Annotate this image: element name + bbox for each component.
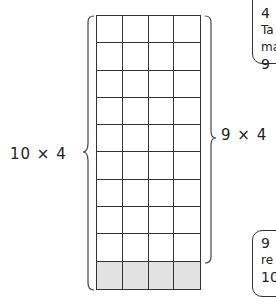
- grid-cell: [123, 207, 149, 234]
- grid-cell: [174, 180, 200, 207]
- callout-top-line: 9: [261, 56, 276, 73]
- shaded-grid-cell: [174, 262, 200, 289]
- grid-cell: [174, 16, 200, 43]
- grid-cell: [97, 152, 123, 179]
- left-brace: [82, 15, 96, 291]
- grid-cell: [97, 207, 123, 234]
- grid-cell: [123, 71, 149, 98]
- grid-cell: [123, 43, 149, 70]
- grid-cell: [149, 16, 175, 43]
- grid-cell: [97, 125, 123, 152]
- shaded-grid-cell: [97, 262, 123, 289]
- grid-cell: [149, 71, 175, 98]
- right-expression-label: 9 × 4: [221, 126, 267, 144]
- shaded-grid-cell: [149, 262, 175, 289]
- grid-cell: [123, 152, 149, 179]
- grid-cell: [174, 98, 200, 125]
- callout-bottom-line: 10: [261, 269, 276, 286]
- grid-cell: [174, 71, 200, 98]
- callout-bottom-line: re: [261, 252, 276, 269]
- grid-cell: [97, 180, 123, 207]
- grid-cell: [97, 43, 123, 70]
- callout-top-line: ma: [261, 39, 276, 56]
- grid-cell: [123, 98, 149, 125]
- grid-cell: [149, 152, 175, 179]
- grid-cell: [174, 43, 200, 70]
- grid-cell: [149, 43, 175, 70]
- callout-top-line: 4: [261, 5, 276, 22]
- grid-cell: [123, 234, 149, 261]
- grid-cell: [149, 180, 175, 207]
- grid-cell: [149, 98, 175, 125]
- callout-box-top: 4 Ta ma 9: [252, 0, 276, 64]
- callout-bottom-line: 9: [261, 235, 276, 252]
- grid-cell: [174, 152, 200, 179]
- grid-cell: [149, 207, 175, 234]
- left-expression-label: 10 × 4: [10, 145, 67, 163]
- grid-cell: [174, 234, 200, 261]
- area-grid-10x4: [96, 15, 201, 290]
- grid-cell: [174, 207, 200, 234]
- grid-cell: [97, 16, 123, 43]
- grid-cell: [123, 16, 149, 43]
- right-brace: [203, 15, 217, 265]
- grid-cell: [149, 125, 175, 152]
- callout-box-bottom: 9 re 10: [252, 230, 276, 297]
- shaded-grid-cell: [123, 262, 149, 289]
- grid-cell: [149, 234, 175, 261]
- callout-top-line: Ta: [261, 22, 276, 39]
- grid-cell: [97, 234, 123, 261]
- grid-cell: [123, 180, 149, 207]
- grid-cell: [97, 71, 123, 98]
- grid-cell: [123, 125, 149, 152]
- grid-cell: [174, 125, 200, 152]
- grid-cell: [97, 98, 123, 125]
